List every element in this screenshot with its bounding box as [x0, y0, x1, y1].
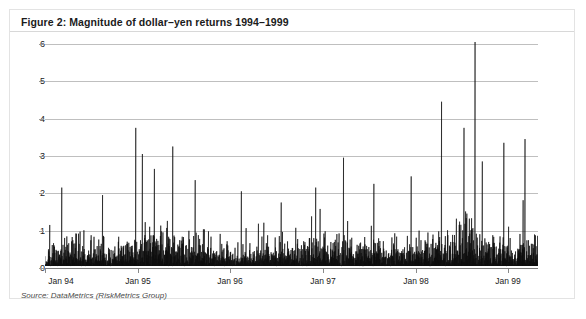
x-tick-mark — [45, 269, 46, 273]
x-tick-label: Jan 96 — [217, 276, 243, 286]
y-tick-mark — [39, 156, 44, 157]
x-tick-label: Jan 99 — [495, 276, 521, 286]
x-tick-label: Jan 98 — [403, 276, 429, 286]
y-tick-mark — [39, 193, 44, 194]
x-tick-mark — [138, 269, 139, 273]
x-axis-line — [45, 268, 538, 269]
x-tick-mark — [230, 269, 231, 273]
y-tick-mark — [39, 231, 44, 232]
figure-root: Figure 2: Magnitude of dollar–yen return… — [0, 0, 586, 319]
x-tick-label: Jan 94 — [48, 276, 74, 286]
plot-area — [45, 42, 538, 269]
x-tick-mark — [416, 269, 417, 273]
source-note: Source: DataMetrics (RiskMetrics Group) — [21, 291, 167, 300]
returns-series — [45, 42, 538, 269]
x-tick-label: Jan 97 — [310, 276, 336, 286]
y-axis: 0123456 — [0, 42, 45, 274]
y-tick-mark — [39, 44, 44, 45]
y-tick-mark — [39, 268, 44, 269]
x-tick-mark — [508, 269, 509, 273]
x-tick-label: Jan 95 — [125, 276, 151, 286]
y-tick-mark — [39, 119, 44, 120]
y-tick-mark — [39, 81, 44, 82]
figure-title: Figure 2: Magnitude of dollar–yen return… — [21, 16, 289, 28]
x-tick-mark — [323, 269, 324, 273]
series-line — [45, 42, 538, 266]
title-divider — [10, 31, 574, 32]
